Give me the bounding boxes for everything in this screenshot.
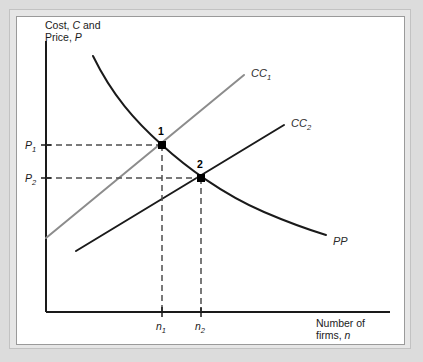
figure-root: 1 2 CC1 CC2 PP P1 P2 n1 n2 (0, 0, 423, 362)
cc2-curve-label-sub: 2 (306, 123, 312, 132)
x-tick-label-n1: n1 (156, 320, 166, 335)
plot-panel: 1 2 CC1 CC2 PP P1 P2 n1 n2 (16, 16, 405, 345)
equilibrium-marker-1 (158, 141, 166, 149)
x-tick-label-n2-sub: 2 (200, 326, 206, 335)
economics-plot-svg: 1 2 CC1 CC2 PP P1 P2 n1 n2 (17, 17, 404, 344)
cc2-curve-label-base: CC (291, 117, 307, 129)
y-axis-label-var-p: P (75, 31, 82, 43)
equilibrium-marker-2 (197, 174, 205, 182)
x-tick-label-n2: n2 (195, 320, 206, 335)
pp-curve-label: PP (333, 235, 348, 247)
tick-marks-group (41, 145, 201, 317)
cc1-curve-label-base: CC (251, 67, 267, 79)
y-tick-label-p1: P1 (25, 139, 36, 154)
cc1-curve-label-sub: 1 (267, 73, 271, 82)
cc2-curve-label: CC2 (291, 117, 312, 132)
x-axis-label-line1: Number of (316, 317, 365, 329)
y-tick-label-p2-base: P (25, 172, 32, 184)
y-axis-label-line1: Cost, C and (45, 19, 101, 31)
x-axis-label-line2: firms, n (316, 329, 351, 341)
equilibrium-label-1: 1 (158, 125, 164, 137)
y-axis-label-prefix2: Price, (45, 31, 75, 43)
cc1-curve-label: CC1 (251, 67, 271, 82)
cc1-curve (46, 75, 244, 238)
y-tick-label-p2: P2 (25, 172, 37, 187)
axes-group (46, 41, 390, 312)
y-tick-label-p1-sub: 1 (32, 145, 36, 154)
x-axis-label-prefix: firms, (316, 329, 345, 341)
x-axis-label-var-n: n (345, 329, 351, 341)
y-tick-label-p2-sub: 2 (31, 178, 37, 187)
y-tick-label-p1-base: P (25, 139, 32, 151)
y-axis-label-suffix: and (80, 19, 101, 31)
equilibrium-label-2: 2 (197, 158, 203, 170)
y-axis-label-line2: Price, P (45, 31, 82, 43)
y-axis-label-prefix: Cost, (45, 19, 72, 31)
x-tick-label-n1-sub: 1 (162, 326, 166, 335)
guide-lines-group (46, 145, 201, 312)
